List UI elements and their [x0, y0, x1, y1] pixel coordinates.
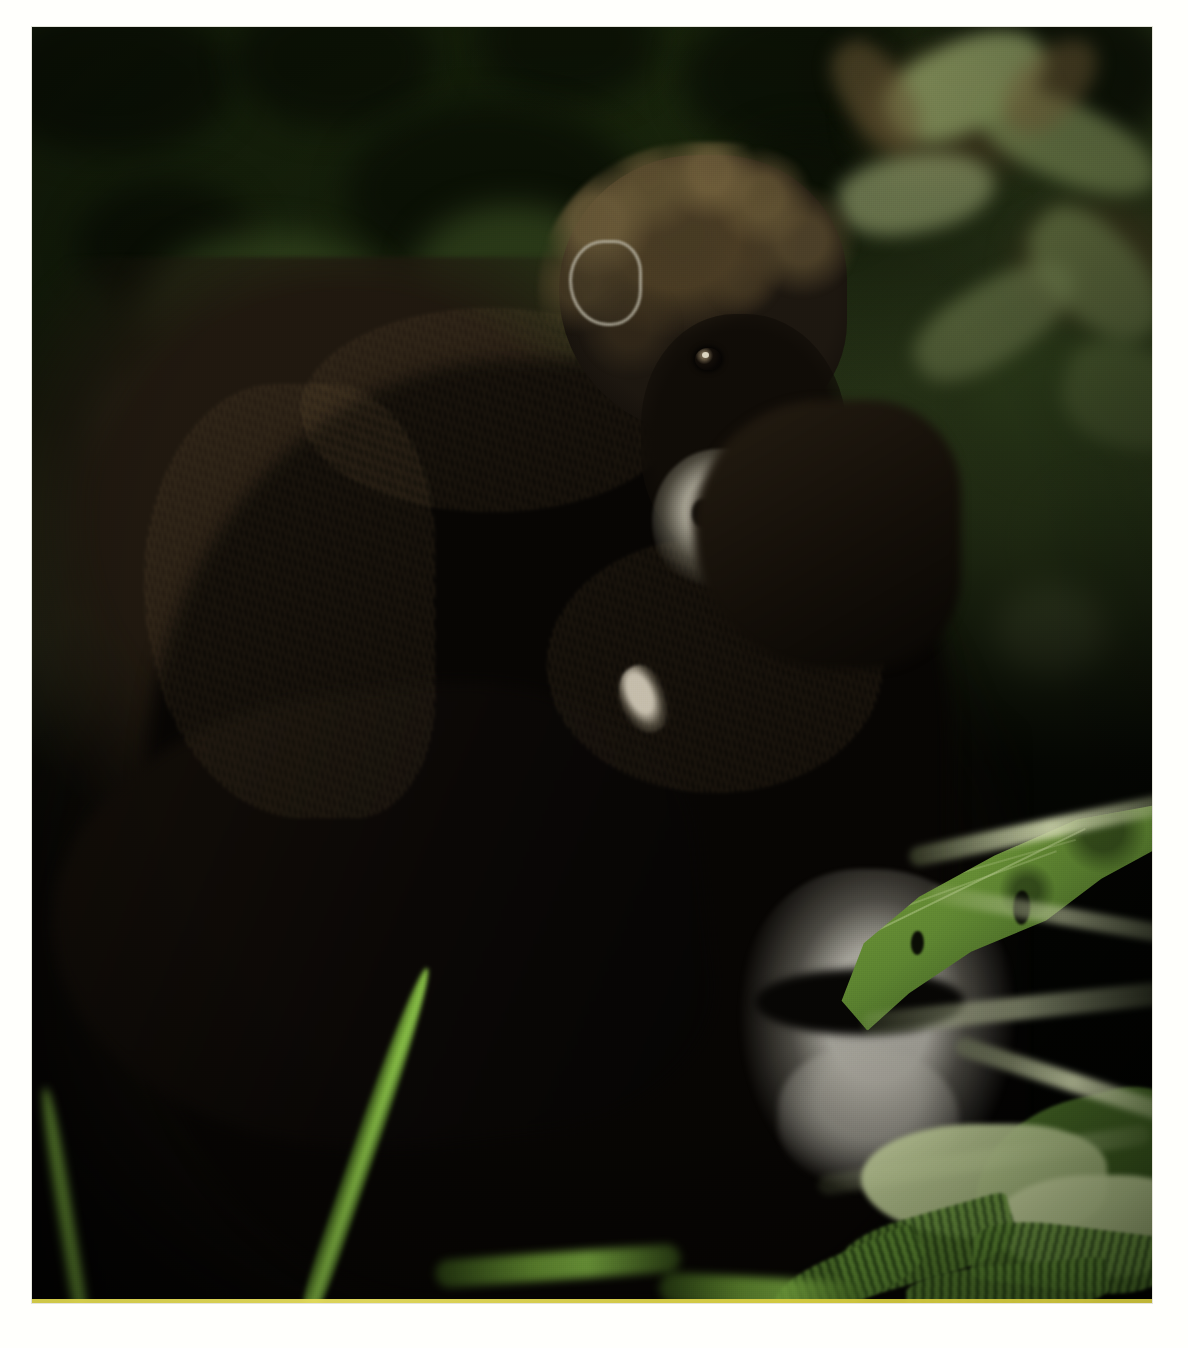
gorilla-infant: [435, 155, 950, 767]
infant-eye-left: [695, 348, 721, 370]
infant-ear: [569, 240, 642, 326]
eye-glint: [702, 352, 709, 358]
photograph: [32, 27, 1152, 1303]
infant-arm: [693, 400, 961, 669]
photo-page: A dark-furred mountain gorilla infant ri…: [0, 0, 1188, 1348]
leaf-hole: [911, 930, 925, 955]
